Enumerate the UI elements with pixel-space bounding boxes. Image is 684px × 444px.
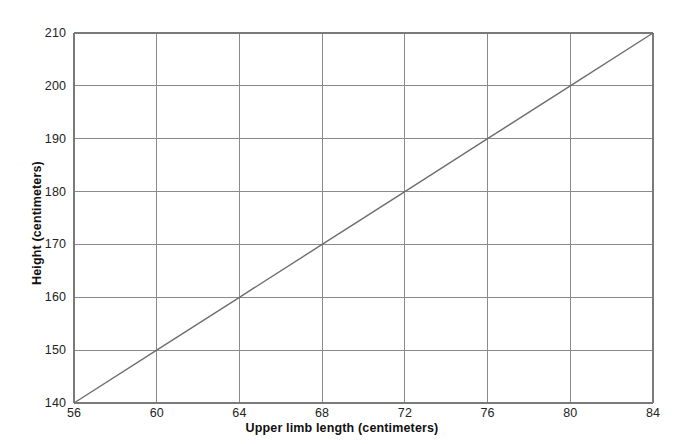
x-tick-label-60: 60: [150, 406, 164, 420]
x-tick-label-72: 72: [398, 406, 412, 420]
plot-area-svg: [0, 0, 684, 444]
y-axis-title: Height (centimeters): [30, 161, 44, 285]
y-tick-label-210: 210: [28, 26, 66, 40]
x-tick-label-68: 68: [315, 406, 329, 420]
x-axis-title: Upper limb length (centimeters): [0, 421, 684, 435]
y-tick-label-200: 200: [28, 79, 66, 93]
y-tick-label-190: 190: [28, 132, 66, 146]
x-tick-label-56: 56: [67, 406, 81, 420]
data-series-line: [74, 33, 653, 403]
x-tick-label-76: 76: [481, 406, 495, 420]
data-line-height-vs-upper-limb-length: [74, 33, 653, 403]
x-tick-label-84: 84: [646, 406, 660, 420]
y-tick-label-160: 160: [28, 290, 66, 304]
y-tick-label-150: 150: [28, 343, 66, 357]
x-tick-label-80: 80: [563, 406, 577, 420]
chart-figure: 140150160170180190200210 566064687276808…: [0, 0, 684, 444]
x-tick-label-64: 64: [232, 406, 246, 420]
y-tick-label-140: 140: [28, 396, 66, 410]
